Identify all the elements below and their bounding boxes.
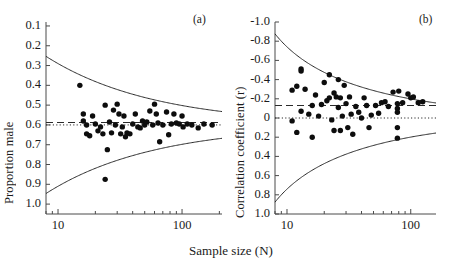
y-tick-label: 0.1: [0, 18, 41, 33]
data-point: [147, 108, 152, 113]
data-point: [130, 121, 135, 126]
data-point: [345, 125, 350, 130]
y-tick-label: 0.2: [231, 129, 270, 144]
data-point: [386, 104, 391, 109]
data-point: [107, 119, 112, 124]
data-point: [395, 125, 400, 130]
data-point: [376, 111, 381, 116]
y-tick-label: -0.2: [231, 91, 270, 106]
data-point: [171, 111, 176, 116]
data-point: [294, 130, 299, 135]
data-point: [121, 113, 126, 118]
data-point: [201, 121, 206, 126]
data-point: [395, 101, 400, 106]
x-tick-label: 100: [157, 218, 207, 233]
data-point: [364, 103, 369, 108]
data-point: [81, 111, 86, 116]
data-point: [102, 177, 107, 182]
data-point: [113, 122, 118, 127]
data-point: [338, 128, 343, 133]
data-point: [416, 100, 421, 105]
data-point: [395, 135, 400, 140]
y-tick-label: 0.4: [0, 77, 41, 92]
data-point: [127, 131, 132, 136]
data-point: [289, 87, 294, 92]
data-point: [313, 92, 318, 97]
y-tick-label: 0.9: [0, 176, 41, 191]
data-point: [369, 112, 374, 117]
data-point: [411, 94, 416, 99]
data-point: [353, 104, 358, 109]
data-point: [336, 77, 341, 82]
x-tick-label: 10: [33, 218, 83, 233]
data-point: [350, 132, 355, 137]
data-point: [160, 122, 165, 127]
data-point: [319, 102, 324, 107]
data-point: [90, 113, 95, 118]
data-point: [98, 124, 103, 129]
x-axis-label: Sample size (N): [0, 243, 462, 259]
data-point: [306, 111, 311, 116]
data-point: [118, 131, 123, 136]
x-tick-label: 100: [386, 218, 436, 233]
data-point: [390, 89, 395, 94]
data-point: [93, 121, 98, 126]
data-point: [100, 131, 105, 136]
data-point: [338, 95, 343, 100]
data-point: [302, 87, 307, 92]
data-point: [400, 100, 405, 105]
data-point: [298, 109, 303, 114]
panel-a: Proportion male (a) 1.00.90.80.70.60.50.…: [0, 0, 231, 266]
data-point: [298, 68, 303, 73]
data-point: [289, 118, 294, 123]
data-point: [342, 83, 347, 88]
y-tick-label: -0.4: [231, 72, 270, 87]
data-point: [327, 95, 332, 100]
data-point: [347, 94, 352, 99]
y-tick-label: 0.6: [0, 117, 41, 132]
data-point: [157, 139, 162, 144]
y-tick-label: -0.8: [231, 33, 270, 48]
data-point: [310, 135, 315, 140]
y-tick-label: 0.8: [0, 157, 41, 172]
panel-b: Correlation coefficient (r) (b) 1.00.80.…: [231, 0, 462, 266]
data-point: [150, 122, 155, 127]
data-point: [316, 113, 321, 118]
data-point: [154, 111, 159, 116]
data-point: [166, 132, 171, 137]
data-point: [294, 84, 299, 89]
data-point: [116, 111, 121, 116]
y-tick-label: 0.7: [0, 137, 41, 152]
data-point: [164, 109, 169, 114]
data-point: [322, 80, 327, 85]
data-point: [327, 72, 332, 77]
y-tick-label: 0.4: [231, 148, 270, 163]
y-tick-label: 0.3: [0, 58, 41, 73]
data-point: [102, 102, 107, 107]
data-point: [361, 95, 366, 100]
data-point: [87, 133, 92, 138]
data-point: [109, 130, 114, 135]
data-point: [138, 125, 143, 130]
y-tick-label: 0.8: [231, 187, 270, 202]
data-point: [84, 122, 89, 127]
data-point: [179, 113, 184, 118]
y-tick-label: 0.5: [0, 97, 41, 112]
data-point: [105, 147, 110, 152]
data-point: [395, 110, 400, 115]
data-point: [120, 124, 125, 129]
data-point: [329, 117, 334, 122]
data-point: [359, 115, 364, 120]
data-point: [420, 99, 425, 104]
data-point: [155, 120, 160, 125]
funnel-plot-figure: Proportion male (a) 1.00.90.80.70.60.50.…: [0, 0, 462, 266]
data-point: [366, 125, 371, 130]
data-point: [189, 122, 194, 127]
data-point: [310, 103, 315, 108]
y-tick-label: 0: [231, 110, 270, 125]
data-point: [382, 99, 387, 104]
data-point: [196, 125, 201, 130]
y-tick-label: 0.2: [0, 38, 41, 53]
data-point: [152, 101, 157, 106]
data-point: [348, 111, 353, 116]
